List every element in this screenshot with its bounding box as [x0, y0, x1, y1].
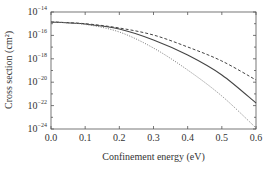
x-tick-label: 0.5 — [216, 132, 229, 143]
chart: 10−1410−1610−1810−2010−2210−24 0.00.10.2… — [0, 0, 273, 170]
y-tick-label: 10−16 — [28, 28, 47, 40]
y-tick-label: 10−14 — [28, 5, 47, 17]
y-tick-label: 10−22 — [28, 99, 47, 111]
y-tick-label: 10−20 — [28, 75, 47, 87]
plot-frame — [51, 12, 256, 129]
x-tick-label: 0.2 — [113, 132, 126, 143]
y-tick-label: 10−18 — [28, 52, 47, 64]
y-axis: 10−1410−1610−1810−2010−2210−24 — [28, 5, 256, 134]
x-tick-label: 0.6 — [250, 132, 263, 143]
series-dashed-line — [51, 22, 256, 80]
x-tick-label: 0.4 — [181, 132, 194, 143]
series-dotted-line — [51, 22, 256, 128]
x-tick-label: 0.3 — [147, 132, 160, 143]
x-tick-label: 0.1 — [79, 132, 92, 143]
y-axis-label: Cross section (cm²) — [3, 31, 15, 109]
x-tick-label: 0.0 — [45, 132, 58, 143]
x-axis: 0.00.10.20.30.40.50.6 — [45, 12, 263, 143]
x-axis-label: Confinement energy (eV) — [102, 151, 205, 163]
data-series — [51, 22, 256, 128]
